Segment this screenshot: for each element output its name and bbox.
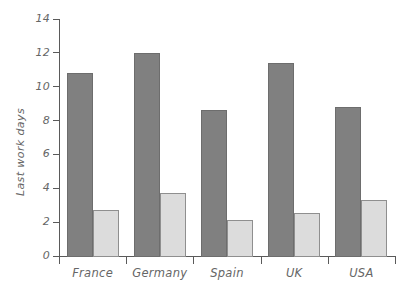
bar-chart: Last work days 02468101214 FranceGermany… [0, 0, 417, 293]
bar-usa-series-1 [335, 107, 361, 257]
y-axis-tick-label-wrap: 2 [8, 222, 50, 223]
y-axis-tick-label: 4 [16, 181, 50, 194]
y-axis-tick-label-wrap: 12 [8, 53, 50, 54]
bar-uk-series-2 [294, 213, 320, 257]
bar-france-series-1 [67, 73, 93, 257]
plot-area [59, 19, 395, 256]
y-axis-tick-label: 8 [16, 114, 50, 127]
y-axis-tick-label-wrap: 8 [8, 121, 50, 122]
x-axis-category-label: Germany [126, 266, 193, 280]
y-axis-tick-label-wrap: 10 [8, 87, 50, 88]
y-axis-tick-label: 6 [16, 147, 50, 160]
y-axis-tick-label-wrap: 4 [8, 188, 50, 189]
y-axis-tick-label-wrap: 6 [8, 154, 50, 155]
bar-france-series-2 [93, 210, 119, 257]
y-axis-tick-label: 2 [16, 215, 50, 228]
y-axis-tick-label: 0 [16, 249, 50, 262]
bar-spain-series-2 [227, 220, 253, 257]
y-axis-tick-label: 12 [16, 46, 50, 59]
y-axis-tick-label-wrap: 0 [8, 256, 50, 257]
x-axis-tick [261, 257, 262, 264]
bar-usa-series-2 [361, 200, 387, 257]
x-axis-tick [59, 257, 60, 264]
x-axis-category-label: France [59, 266, 126, 280]
y-axis-tick-label: 10 [16, 80, 50, 93]
y-axis-tick-label: 14 [16, 12, 50, 25]
x-axis-tick [395, 257, 396, 264]
x-axis-category-label: USA [328, 266, 395, 280]
y-axis-tick-label-wrap: 14 [8, 19, 50, 20]
bar-spain-series-1 [201, 110, 227, 257]
x-axis-tick [193, 257, 194, 264]
bar-uk-series-1 [268, 63, 294, 257]
x-axis-category-label: UK [261, 266, 328, 280]
x-axis-tick [328, 257, 329, 264]
bar-germany-series-1 [134, 53, 160, 257]
bar-germany-series-2 [160, 193, 186, 257]
x-axis-tick [126, 257, 127, 264]
x-axis-category-label: Spain [193, 266, 260, 280]
